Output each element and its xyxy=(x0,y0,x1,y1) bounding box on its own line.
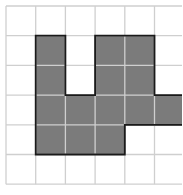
shaded-cell xyxy=(95,125,125,155)
shaded-cell xyxy=(65,95,95,125)
shaded-cell xyxy=(65,125,95,155)
grid-diagram xyxy=(0,0,182,195)
shaded-cell xyxy=(125,65,155,95)
shaded-cell xyxy=(36,95,66,125)
shaded-cell xyxy=(125,95,155,125)
shaded-cell xyxy=(155,95,183,125)
shaded-cell xyxy=(36,65,66,95)
shaded-cell xyxy=(125,36,155,66)
shaded-cell xyxy=(36,125,66,155)
shaded-cell xyxy=(95,65,125,95)
shaded-cell xyxy=(36,36,66,66)
shaded-cell xyxy=(95,95,125,125)
shaded-cell xyxy=(95,36,125,66)
